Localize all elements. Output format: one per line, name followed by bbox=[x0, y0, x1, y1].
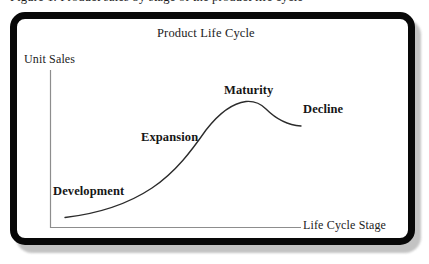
chart-title: Product Life Cycle bbox=[157, 27, 255, 40]
stage-label-expansion: Expansion bbox=[141, 131, 198, 144]
x-axis-label: Life Cycle Stage bbox=[303, 219, 386, 231]
chart-plot-area: Product Life Cycle Unit Sales Life Cycle… bbox=[0, 0, 429, 264]
stage-label-decline: Decline bbox=[303, 103, 343, 116]
y-axis-label: Unit Sales bbox=[24, 53, 75, 65]
life-cycle-curve bbox=[65, 101, 301, 217]
stage-label-development: Development bbox=[53, 185, 124, 198]
product-life-cycle-figure: Figure 1. Product sales by stage of the … bbox=[0, 0, 429, 264]
stage-label-maturity: Maturity bbox=[224, 84, 273, 97]
